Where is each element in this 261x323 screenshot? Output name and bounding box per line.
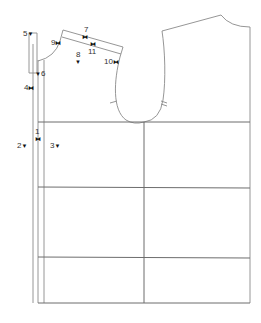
body-grid: [38, 122, 250, 303]
triangle-down-icon: ▼: [21, 143, 27, 149]
marker-9: 9⧓: [51, 39, 61, 47]
back-shoulder: [162, 15, 221, 31]
marker-3: 3▼: [50, 142, 60, 150]
marker-1-symbol: ⧓: [35, 135, 41, 143]
triangle-down-icon: ▼: [27, 31, 33, 37]
bowtie-icon: ⧓: [28, 85, 34, 91]
marker-6: ▼6: [35, 70, 45, 78]
bowtie-icon: ⧓: [35, 136, 41, 142]
marker-2: 2▼: [17, 142, 27, 150]
triangle-down-icon: ▼: [54, 143, 60, 149]
armhole-notches: [110, 101, 167, 106]
bowtie-icon: ⧓: [113, 59, 119, 65]
front-armhole: [115, 57, 144, 123]
marker-11: 11: [88, 48, 96, 56]
back-armhole: [144, 31, 165, 122]
pattern-diagram: [0, 0, 261, 323]
marker-10: 10⧓: [104, 58, 119, 66]
marker-7-symbol: ⧓: [82, 33, 88, 41]
marker-5: 5▼: [23, 30, 33, 38]
bowtie-icon: ⧓: [82, 34, 88, 40]
back-neckline: [221, 15, 250, 27]
triangle-down-icon: ▼: [75, 59, 81, 65]
marker-4: 4⧓: [24, 84, 34, 92]
bowtie-icon: ⧓: [55, 40, 61, 46]
marker-8-symbol: ▼: [75, 58, 81, 66]
